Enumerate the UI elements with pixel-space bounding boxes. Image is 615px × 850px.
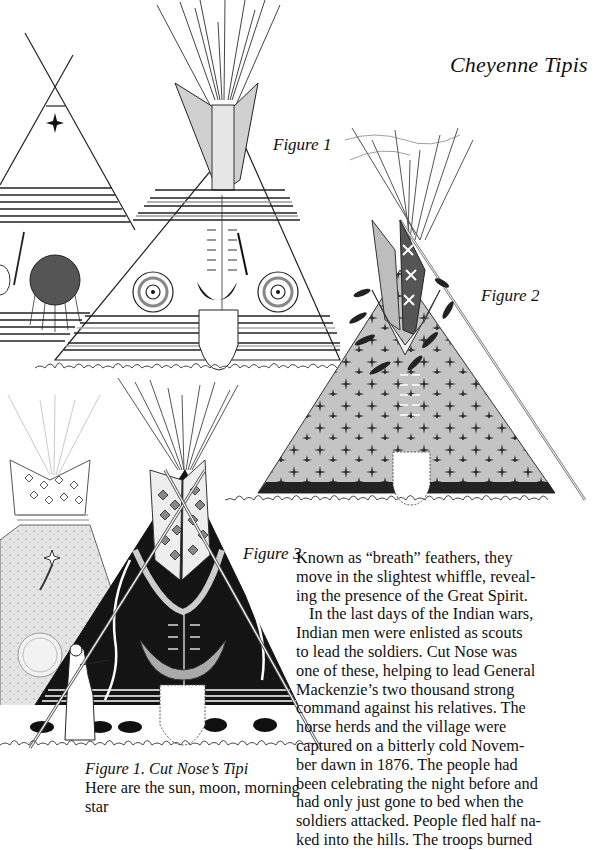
figure-2-label: Figure 2 — [481, 286, 539, 306]
text-line: Indian men were enlisted as scouts — [296, 623, 523, 642]
text-line: horse herds and the village were — [296, 717, 506, 736]
text-line: ked into the hills. The troops burned — [296, 830, 532, 849]
text-line: Mackenzie’s two thousand strong — [296, 680, 514, 699]
text-line: been celebrating the night before and — [296, 774, 538, 793]
text-line: soldiers attacked. People fled half na- — [296, 811, 541, 830]
paragraph-2: In the last days of the Indian wars, Ind… — [296, 605, 615, 849]
figure-caption: Figure 1. Cut Nose’s Tipi Here are the s… — [85, 760, 305, 816]
text-line: command against his relatives. The — [296, 698, 526, 717]
page-title: Cheyenne Tipis — [450, 52, 588, 78]
text-line: one of these, helping to lead General — [296, 661, 535, 680]
text-line: In the last days of the Indian wars, — [309, 604, 533, 623]
text-line: captured on a bitterly cold Novem- — [296, 736, 524, 755]
figure-1-label: Figure 1 — [273, 135, 331, 155]
body-text: Known as “breath” feathers, they move in… — [296, 549, 615, 850]
caption-title: Figure 1. Cut Nose’s Tipi — [85, 760, 305, 779]
text-line: move in the slightest whiffle, reveal- — [296, 567, 535, 586]
paragraph-1: Known as “breath” feathers, they move in… — [296, 549, 615, 605]
text-line: Known as “breath” feathers, they — [296, 548, 513, 567]
text-line: had only just gone to bed when the — [296, 792, 523, 811]
text-line: ing the presence of the Great Spirit. — [296, 586, 528, 605]
figure-3-label: Figure 3 — [243, 544, 301, 564]
text-line: ber dawn in 1876. The people had — [296, 755, 518, 774]
caption-text: Here are the sun, moon, morning star — [85, 778, 300, 816]
figure-1-tipi — [35, 0, 340, 370]
text-line: to lead the soldiers. Cut Nose was — [296, 642, 517, 661]
